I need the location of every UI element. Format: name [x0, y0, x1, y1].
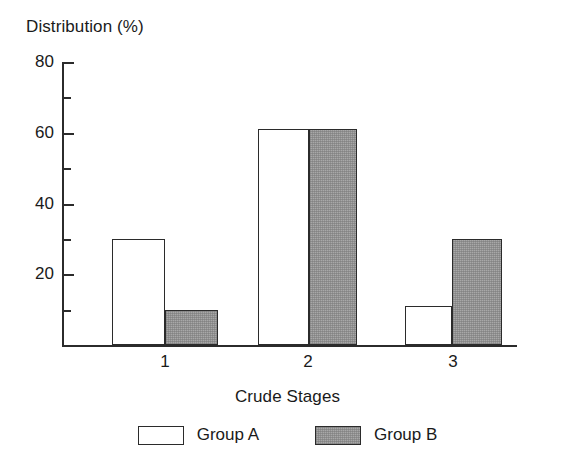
- y-axis-tick-labels: 80 60 40 20: [14, 62, 54, 345]
- bar-group2-series-b: [309, 129, 357, 345]
- y-tick-label-80: 80: [35, 52, 54, 72]
- legend-swatch-group-a: [138, 426, 184, 445]
- legend-label-group-b: Group B: [374, 425, 437, 445]
- legend-item-group-b: Group B: [315, 425, 437, 445]
- bar-group1-series-a: [112, 239, 165, 345]
- legend-swatch-group-b: [315, 426, 361, 445]
- bar-chart-figure: Distribution (%) 80 60 40 20 1 2 3: [0, 0, 575, 468]
- y-tick-label-60: 60: [35, 123, 54, 143]
- bar-group3-series-b: [452, 239, 502, 345]
- x-tick-label-1: 1: [160, 352, 169, 372]
- bar-group1-series-b: [165, 310, 218, 345]
- bar-group2-series-a: [258, 129, 309, 345]
- legend-label-group-a: Group A: [197, 425, 259, 445]
- x-axis-title: Crude Stages: [0, 387, 575, 407]
- bar-group3-series-a: [405, 306, 452, 345]
- y-tick-label-40: 40: [35, 194, 54, 214]
- x-axis-line: [62, 345, 517, 347]
- x-tick-label-2: 2: [303, 352, 312, 372]
- y-tick-label-20: 20: [35, 264, 54, 284]
- legend-item-group-a: Group A: [138, 425, 259, 445]
- bars-layer: [62, 62, 517, 345]
- y-axis-title: Distribution (%): [26, 17, 144, 37]
- plot-area: [62, 62, 517, 345]
- chart-legend: Group A Group B: [0, 425, 575, 445]
- x-tick-label-3: 3: [448, 352, 457, 372]
